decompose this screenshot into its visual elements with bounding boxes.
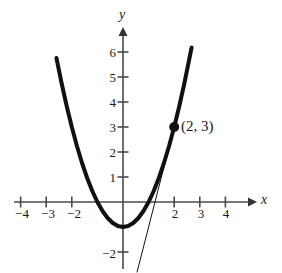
y-tick-label-3: 3 — [104, 121, 116, 134]
point-annotation-label: (2, 3) — [181, 119, 214, 134]
x-tick-label-4: 4 — [220, 207, 232, 220]
y-tick-label-1: 1 — [104, 171, 116, 184]
x-axis-arrowhead — [248, 198, 257, 207]
coordinate-plane — [0, 0, 282, 273]
y-tick-label-4: 4 — [104, 96, 116, 109]
data-point-markers-group — [169, 122, 179, 132]
x-tick-label--4: −4 — [13, 207, 31, 220]
y-tick-label--2: −2 — [96, 247, 116, 260]
x-axis-label: x — [261, 193, 267, 207]
point-2-3-marker — [169, 122, 179, 132]
y-tick-label-5: 5 — [104, 71, 116, 84]
plotted-curves-group — [56, 48, 191, 273]
axes-group — [14, 27, 257, 269]
y-tick-label-2: 2 — [104, 146, 116, 159]
graph-figure: y x −4 −3 −2 2 3 4 6 5 4 3 2 1 −2 (2, 3) — [0, 0, 282, 273]
x-tick-label-2: 2 — [169, 207, 181, 220]
tangent-line — [137, 122, 175, 272]
x-tick-label-3: 3 — [195, 207, 207, 220]
y-axis-label: y — [119, 8, 125, 22]
x-tick-label--3: −3 — [39, 207, 57, 220]
y-axis-arrowhead — [119, 27, 128, 36]
x-tick-label--2: −2 — [65, 207, 83, 220]
y-tick-label-6: 6 — [104, 46, 116, 59]
